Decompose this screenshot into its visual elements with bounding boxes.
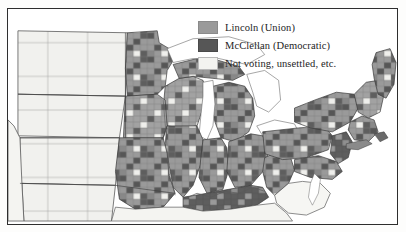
region-kansas — [20, 138, 119, 186]
region-western-territories — [8, 31, 127, 221]
legend-swatch-mcclellan — [198, 39, 218, 52]
legend-item-mcclellan: McClellan (Democratic) — [198, 37, 336, 53]
legend-item-not-voting: Not voting, unsettled, etc. — [198, 55, 336, 71]
legend-swatch-lincoln — [198, 21, 218, 34]
election-map-figure: Lincoln (Union) McClellan (Democratic) N… — [0, 0, 406, 232]
region-nebraska-territory — [18, 94, 125, 138]
region-dakota-territory — [18, 31, 127, 96]
region-indian-territory — [22, 183, 116, 221]
legend-label-lincoln: Lincoln (Union) — [225, 22, 295, 33]
region-missouri — [115, 138, 175, 209]
map-frame: Lincoln (Union) McClellan (Democratic) N… — [7, 8, 398, 225]
legend-label-not-voting: Not voting, unsettled, etc. — [225, 58, 336, 69]
legend-label-mcclellan: McClellan (Democratic) — [225, 40, 330, 51]
legend-swatch-not-voting — [198, 57, 218, 70]
legend-item-lincoln: Lincoln (Union) — [198, 19, 336, 35]
map-legend: Lincoln (Union) McClellan (Democratic) N… — [198, 19, 336, 71]
region-indiana — [199, 138, 229, 193]
region-iowa — [123, 94, 167, 138]
